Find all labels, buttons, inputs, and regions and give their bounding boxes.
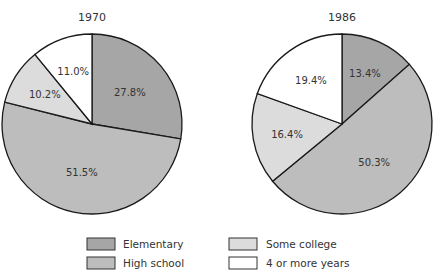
pie-chart-1986: 13.4%50.3%16.4%19.4% — [252, 34, 432, 214]
legend-label-some-college: Some college — [266, 238, 337, 250]
legend-swatch-high-school — [87, 257, 115, 269]
legend-swatch-4-or-more-years — [229, 257, 257, 269]
legend-label-elementary: Elementary — [123, 238, 183, 250]
slice-label: 11.0% — [57, 66, 89, 77]
slice-label: 51.5% — [66, 167, 98, 178]
legend-label-high-school: High school — [123, 257, 184, 269]
slice-label: 27.8% — [114, 87, 146, 98]
slice-label: 10.2% — [29, 89, 61, 100]
chart-title-1986: 1986 — [328, 11, 356, 24]
legend-swatch-elementary — [87, 238, 115, 250]
pie-charts: 27.8%51.5%10.2%11.0% 13.4%50.3%16.4%19.4… — [0, 0, 437, 276]
legend: Elementary High school Some college 4 or… — [87, 238, 350, 269]
legend-swatch-some-college — [229, 238, 257, 250]
chart-title-1970: 1970 — [78, 11, 106, 24]
legend-label-4-or-more-years: 4 or more years — [266, 257, 350, 269]
slice-label: 50.3% — [358, 157, 390, 168]
slice-label: 16.4% — [271, 129, 303, 140]
slice-label: 13.4% — [349, 68, 381, 79]
slice-label: 19.4% — [295, 75, 327, 86]
pie-chart-1970: 27.8%51.5%10.2%11.0% — [2, 34, 182, 214]
